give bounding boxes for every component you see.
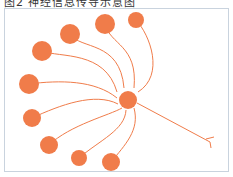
neuron-convergence-diagram <box>0 0 233 177</box>
central-neuron <box>119 91 137 109</box>
